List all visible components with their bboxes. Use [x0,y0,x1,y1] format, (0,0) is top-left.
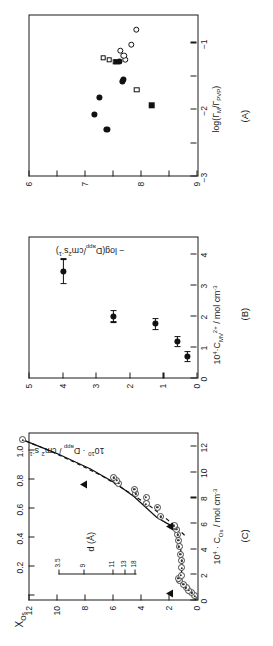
three-panel-figure: 0 2 4 6 8 10 12 104 · COs / mol cm-3 0.2… [0,0,273,646]
panel-b-ytick [95,372,96,378]
panel-a-ytick [112,170,113,176]
panel-b-data-point [184,353,190,359]
panel-a-data-point [113,59,119,65]
panel-a-ytick [28,170,29,176]
panel-a-ytick-label: 7 [80,181,89,186]
panel-b-error-cap [152,317,158,318]
panel-a-data-point [133,26,139,32]
panel-a-plot-frame [28,14,198,176]
panel-c-data-point [157,513,164,520]
panel-a-ytick [168,170,169,176]
panel-c-data-point [178,564,185,571]
panel-b-xtick-label: 4 [199,252,208,257]
panel-a-yaxis-title: − log(Dapp/cm2s-1) [55,243,124,256]
panel-a-data-point [148,102,154,108]
panel-a-data-point [106,57,112,63]
panel-b-xtick [190,346,196,347]
panel-b-ytick [196,372,197,378]
panel-b-xaxis-title: 104·CMV2+ / mol cm-3 [211,285,224,364]
panel-b-error-cap [152,328,158,329]
panel-a-ytick-label: 8 [136,181,145,186]
panel-b-xtick [190,377,196,378]
panel-b-ytick [162,372,163,378]
panel-b-ytick-label: 1 [158,383,167,388]
panel-b-ytick-label: 5 [24,383,33,388]
panel-b-xtick-label: 3 [199,283,208,288]
panel-a-data-point [91,111,97,117]
panel-a-ytick-label: 9 [192,181,201,186]
panel-b-ytick-label: 3 [91,383,100,388]
panel-a-xtick [190,142,196,143]
panel-c-data-point [19,436,26,443]
panel-b-xtick-label: 2 [199,314,208,319]
panel-b-ytick [62,372,63,378]
panel-c-triangle-point [165,522,172,530]
panel-b-error-cap [110,321,116,322]
panel-a-data-point [117,47,123,53]
panel-b-error-cap [110,310,116,311]
panel-a-data-point [120,76,126,82]
panel-b-error-cap [60,283,66,284]
panel-b-xtick-label: 1 [199,345,208,350]
panel-b-xtick-label: 0 [199,376,208,381]
panel-b-data-point [60,268,66,274]
panel-c-tag: (C) [238,529,249,542]
panel-c-data-point [176,550,183,557]
panel-b-error-cap [174,345,180,346]
panel-b-plot-frame [28,236,198,378]
panel-a: −3 −2 −1 log(ΓM/ΓPVP) 9 8 7 6 − log(Dapp… [0,0,273,222]
panel-a-xtick [190,41,196,42]
panel-c-data-point [153,503,160,510]
panel-b-ytick-label: 4 [58,383,67,388]
panel-a-xaxis-title: log(ΓM/ΓPVP) [211,85,222,132]
panel-a-tag: (A) [238,109,249,122]
panel-a-ytick [84,170,85,176]
panel-b: 0 1 2 3 4 104·CMV2+ / mol cm-3 0 1 2 3 4… [0,226,273,424]
panel-b-ytick [129,372,130,378]
panel-a-data-point [127,41,133,47]
panel-b-ytick-label: 2 [125,383,134,388]
panel-b-tag: (B) [238,307,249,320]
panel-b-xtick [190,284,196,285]
panel-a-ytick [56,170,57,176]
panel-b-yaxis-title: 1010 · Dapp / cm2 s-1 [29,443,104,456]
panel-b-data-point [152,320,158,326]
panel-b-error-cap [184,360,190,361]
panel-a-xtick [190,75,196,76]
panel-c-triangle-point [80,480,87,488]
panel-c-data-point [110,474,117,481]
figure-canvas: 0 2 4 6 8 10 12 104 · COs / mol cm-3 0.2… [0,0,273,646]
panel-b-ytick-label: 0 [192,383,201,388]
panel-a-data-point [96,94,102,100]
panel-c-data-point [142,494,149,501]
panel-b-xtick [190,253,196,254]
panel-b-error-cap [184,350,190,351]
panel-c-triangle-point [166,589,173,597]
panel-b-data-point [110,313,116,319]
panel-b-error-cap [60,258,66,259]
panel-a-ytick-label: 6 [24,181,33,186]
panel-c-data-point [177,572,184,579]
panel-b-ytick [28,372,29,378]
panel-a-xtick-label: −2 [199,106,208,116]
panel-a-xtick [190,108,196,109]
panel-a-ytick [140,170,141,176]
panel-b-error-cap [174,335,180,336]
panel-a-xtick [190,175,196,176]
panel-b-xtick [190,315,196,316]
panel-c-data-point [130,485,137,492]
panel-a-data-point [103,126,109,132]
panel-a-data-point [100,55,106,61]
panel-b-data-point [173,338,179,344]
panel-a-data-point [133,87,139,93]
panel-a-ytick [196,170,197,176]
panel-a-xtick-label: −1 [199,39,208,49]
